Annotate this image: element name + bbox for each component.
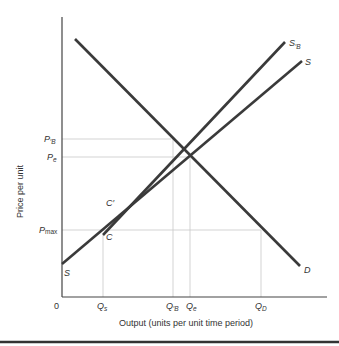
supply-sb-label: S′B	[289, 38, 301, 50]
curves	[62, 39, 302, 266]
supply-top-label: S	[305, 57, 311, 67]
y-tick-pb: P′B	[44, 134, 56, 145]
x-tick-qs-main: Q	[97, 301, 104, 311]
demand-label: D	[304, 265, 311, 275]
x-tick-qd-sub: D	[262, 305, 267, 312]
point-c-label: C	[106, 232, 113, 242]
x-tick-qd-main: Q	[255, 301, 262, 311]
x-tick-qs-sub: s	[104, 305, 108, 312]
y-axis-title: Price per unit	[15, 164, 25, 218]
supply-demand-diagram: D S S S′B C′ C P′B Pe Pmax 0 Qs Q′B Qe Q…	[0, 0, 339, 346]
x-axis-title: Output (units per unit time period)	[119, 318, 253, 328]
x-tick-qe: Qe	[186, 301, 197, 312]
x-tick-qs: Qs	[97, 301, 108, 312]
y-tick-pe: Pe	[47, 152, 57, 163]
guide-lines	[62, 139, 261, 297]
x-tick-qb-sub: ′B	[173, 305, 179, 312]
y-tick-pb-sub: ′B	[50, 138, 56, 145]
x-tick-qb-main: Q	[166, 301, 173, 311]
x-tick-qd: QD	[255, 301, 267, 312]
x-tick-qe-sub: e	[193, 305, 197, 312]
origin-label: 0	[54, 301, 59, 311]
supply-bottom-label: S	[64, 268, 70, 278]
supply-curve-sb	[103, 42, 285, 235]
y-tick-pmax: Pmax	[39, 225, 58, 235]
supply-sb-label-sub: ′B	[295, 43, 301, 50]
x-tick-qe-main: Q	[186, 301, 193, 311]
x-tick-qb: Q′B	[166, 301, 179, 312]
y-tick-pe-sub: e	[53, 156, 57, 163]
point-c-prime-label: C′	[106, 198, 114, 208]
y-tick-pmax-sub: max	[45, 228, 58, 235]
supply-curve-s	[62, 61, 302, 264]
